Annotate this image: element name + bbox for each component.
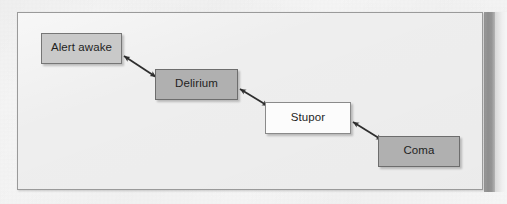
node-label-delirium: Delirium — [175, 78, 218, 91]
page-edge — [495, 12, 507, 192]
node-label-alert-awake: Alert awake — [51, 42, 112, 55]
node-stupor[interactable]: Stupor — [265, 102, 351, 134]
node-delirium[interactable]: Delirium — [155, 69, 238, 100]
node-label-coma: Coma — [403, 145, 434, 158]
node-coma[interactable]: Coma — [378, 136, 460, 167]
node-label-stupor: Stupor — [291, 112, 325, 125]
page-gutter-shadow — [484, 12, 495, 192]
node-alert-awake[interactable]: Alert awake — [41, 33, 122, 64]
figure-screenshot: sensorium deteriorationconsciousness lev… — [0, 0, 507, 204]
